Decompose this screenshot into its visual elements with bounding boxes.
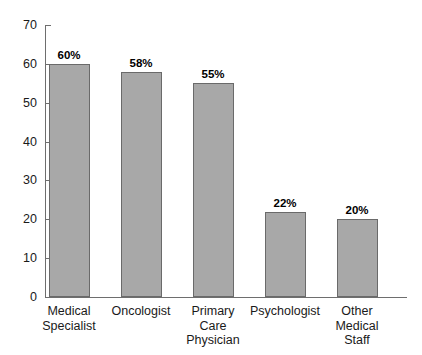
x-axis-line — [45, 297, 407, 298]
y-tick-label: 0 — [11, 291, 37, 303]
bar-value-label: 20% — [322, 204, 392, 216]
y-tick-mark — [45, 25, 51, 26]
x-axis-label-line: Other — [307, 304, 407, 319]
y-axis-line — [45, 25, 46, 298]
bar-value-label: 58% — [106, 57, 176, 69]
x-axis-label-line: Medical — [307, 319, 407, 334]
x-axis-label-line: Specialist — [19, 319, 119, 334]
y-tick-label: 70 — [11, 19, 37, 31]
bar-chart: 010203040506070 60%58%55%22%20% MedicalS… — [0, 0, 422, 355]
y-tick-label: 40 — [11, 136, 37, 148]
bar-value-label: 60% — [34, 49, 104, 61]
y-tick-label: 30 — [11, 174, 37, 186]
x-axis-label-line: Physician — [163, 333, 263, 348]
bar — [337, 219, 378, 297]
x-axis-label-line: Staff — [307, 333, 407, 348]
bar — [49, 64, 90, 297]
bar — [265, 212, 306, 297]
bar — [121, 72, 162, 297]
y-tick-label: 10 — [11, 252, 37, 264]
x-axis-label-line: Care — [163, 319, 263, 334]
y-tick-label: 20 — [11, 213, 37, 225]
y-tick-mark — [45, 297, 51, 298]
bar — [193, 83, 234, 297]
bar-value-label: 55% — [178, 68, 248, 80]
bar-value-label: 22% — [250, 197, 320, 209]
y-tick-label: 50 — [11, 97, 37, 109]
x-axis-category-label: OtherMedicalStaff — [307, 304, 407, 348]
plot-area: 010203040506070 60%58%55%22%20% MedicalS… — [0, 0, 422, 355]
